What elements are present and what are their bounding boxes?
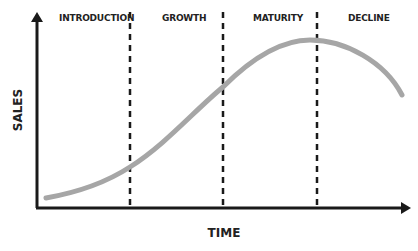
stage-label-decline: DECLINE — [348, 13, 390, 23]
y-axis-label: SALES — [11, 89, 25, 131]
x-axis-arrow-icon — [401, 202, 411, 214]
y-axis-arrow-icon — [31, 12, 43, 22]
stage-label-maturity: MATURITY — [253, 13, 304, 23]
product-life-cycle-diagram: INTRODUCTION GROWTH MATURITY DECLINE TIM… — [0, 0, 418, 251]
stage-label-introduction: INTRODUCTION — [59, 13, 134, 23]
x-axis-label: TIME — [208, 226, 241, 240]
sales-curve — [46, 40, 402, 198]
stage-label-growth: GROWTH — [162, 13, 206, 23]
